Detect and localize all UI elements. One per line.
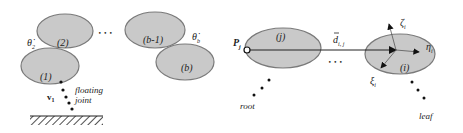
floating-joint-dots: [59, 80, 73, 110]
point-pj: [244, 47, 250, 53]
root-dots: [253, 79, 271, 97]
zeta-label: ζi: [400, 17, 406, 30]
pj-label: Pj: [233, 37, 241, 50]
chain-ellipsis-right: • • •: [328, 58, 342, 65]
link-2-label: (2): [57, 37, 69, 49]
ground-hatch: [30, 116, 103, 125]
theta-b-label: θ̇b: [192, 31, 200, 44]
kinematic-chain-diagram: (1) (2) θ̇2 • • • (b-1) (b) θ̇b v1: [0, 0, 463, 133]
floating-label: floating: [75, 85, 104, 95]
root-label: root: [240, 101, 255, 111]
v1-label: v1: [47, 92, 55, 103]
chain-ellipsis: • • •: [98, 29, 112, 36]
link-i-label: (i): [400, 62, 410, 74]
link-b-1-label: (b-1): [143, 34, 164, 46]
left-panel-multibody: (1) (2) θ̇2 • • • (b-1) (b) θ̇b v1: [21, 12, 214, 125]
link-1-label: (1): [40, 71, 52, 83]
xi-label: ξi: [370, 75, 376, 88]
leaf-label: leaf: [419, 111, 434, 121]
right-panel-kinematics: (j) (i) Pj di, j • • • ζi ηi ξi: [233, 17, 435, 121]
theta-2-label: θ̇2: [27, 37, 35, 50]
link-j-label: (j): [276, 31, 286, 43]
leaf-dots: [411, 81, 426, 100]
joint-label: joint: [74, 95, 92, 105]
d-label: di, j: [333, 34, 345, 47]
link-b-label: (b): [181, 62, 193, 74]
